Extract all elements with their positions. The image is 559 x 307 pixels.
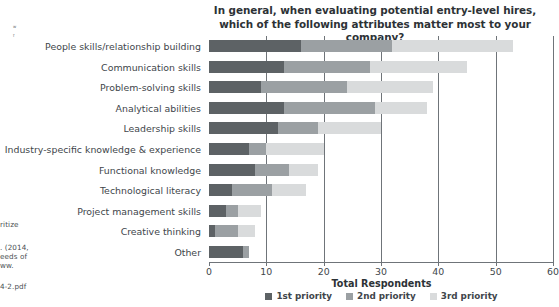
legend-item[interactable]: 3rd priority (430, 291, 498, 301)
bar-segment[interactable] (278, 122, 318, 134)
bar-segment[interactable] (215, 225, 238, 237)
bar-segment[interactable] (261, 81, 347, 93)
category-label: Industry-specific knowledge & experience (5, 144, 201, 155)
category-label: Analytical abilities (116, 103, 201, 114)
legend-swatch-icon (265, 293, 272, 300)
legend-label: 2nd priority (357, 291, 416, 301)
legend-label: 3rd priority (441, 291, 498, 301)
x-tick-label-50: 50 (476, 266, 516, 277)
bar-segment[interactable] (209, 61, 284, 73)
category-label: Project management skills (77, 206, 201, 217)
category-label: Functional knowledge (99, 165, 201, 176)
bar-segment[interactable] (284, 102, 376, 114)
x-tick-label-0: 0 (189, 266, 229, 277)
bar-segment[interactable] (209, 102, 284, 114)
bar-segment[interactable] (255, 164, 289, 176)
x-tick-label-20: 20 (304, 266, 344, 277)
x-tick-label-60: 60 (533, 266, 559, 277)
legend-item[interactable]: 2nd priority (346, 291, 416, 301)
bar-segment[interactable] (209, 40, 301, 52)
x-tick-label-30: 30 (361, 266, 401, 277)
category-label: Leadership skills (123, 123, 201, 134)
gridline-50 (496, 36, 497, 262)
category-label: People skills/relationship building (45, 41, 201, 52)
bar-segment[interactable] (238, 205, 261, 217)
bar-segment[interactable] (238, 225, 255, 237)
category-label: Technological literacy (100, 185, 201, 196)
category-label: Creative thinking (121, 226, 201, 237)
bar-segment[interactable] (318, 122, 381, 134)
bar-segment[interactable] (370, 61, 467, 73)
bar-segment[interactable] (272, 184, 306, 196)
x-tick-label-40: 40 (418, 266, 458, 277)
bar-segment[interactable] (289, 164, 318, 176)
bar-segment[interactable] (209, 81, 261, 93)
gridline-60 (553, 36, 554, 262)
x-axis-title: Total Respondents (209, 278, 554, 289)
legend-swatch-icon (430, 293, 437, 300)
bar-segment[interactable] (375, 102, 427, 114)
bar-segment[interactable] (209, 143, 249, 155)
legend-item[interactable]: 1st priority (265, 291, 332, 301)
bar-segment[interactable] (392, 40, 512, 52)
category-label: Other (174, 247, 201, 258)
legend-label: 1st priority (276, 291, 332, 301)
stacked-bar-chart: In general, when evaluating potential en… (0, 0, 559, 307)
category-axis-labels: People skills/relationship buildingCommu… (0, 36, 205, 262)
bar-segment[interactable] (301, 40, 393, 52)
bar-segment[interactable] (347, 81, 433, 93)
category-label: Communication skills (101, 62, 201, 73)
bar-segment[interactable] (209, 184, 232, 196)
bar-segment[interactable] (232, 184, 272, 196)
bar-segment[interactable] (243, 246, 249, 258)
bar-segment[interactable] (249, 143, 266, 155)
chart-legend: 1st priority2nd priority3rd priority (209, 291, 554, 301)
bar-segment[interactable] (209, 246, 243, 258)
bar-segment[interactable] (209, 205, 226, 217)
bar-segment[interactable] (266, 143, 323, 155)
legend-swatch-icon (346, 293, 353, 300)
bar-segment[interactable] (284, 61, 370, 73)
bar-segment[interactable] (226, 205, 237, 217)
plot-area (209, 36, 553, 262)
bar-segment[interactable] (209, 164, 255, 176)
x-tick-label-10: 10 (246, 266, 286, 277)
bar-segment[interactable] (209, 122, 278, 134)
category-label: Problem-solving skills (100, 82, 201, 93)
